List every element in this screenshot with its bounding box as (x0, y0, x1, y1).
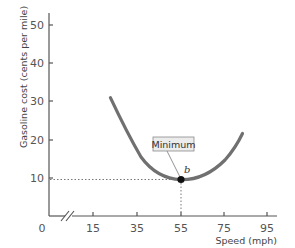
origin-label: 0 (39, 222, 46, 235)
y-tick-labels: 50 40 30 20 10 (30, 19, 44, 185)
callout-leader (167, 151, 180, 177)
y-tick-20: 20 (30, 134, 44, 147)
minimum-callout: Minimum (151, 137, 195, 151)
point-label-b: b (184, 164, 190, 175)
x-tick-labels: 0 15 35 55 75 95 (39, 222, 275, 235)
x-tick-15: 15 (86, 222, 100, 235)
y-tick-10: 10 (30, 172, 44, 185)
x-tick-75: 75 (217, 222, 231, 235)
x-tick-35: 35 (130, 222, 144, 235)
y-axis-title: Gasoline cost (cents per mile) (18, 6, 29, 148)
y-tick-40: 40 (30, 57, 44, 70)
x-axis-title: Speed (mph) (215, 235, 277, 246)
y-tick-50: 50 (30, 19, 44, 32)
reference-lines (50, 180, 181, 216)
callout-text: Minimum (151, 139, 195, 150)
x-tick-55: 55 (174, 222, 188, 235)
y-tick-30: 30 (30, 95, 44, 108)
minimum-point (177, 176, 184, 183)
x-tick-95: 95 (260, 222, 274, 235)
chart: Gasoline cost (cents per mile) 50 40 30 … (0, 0, 295, 248)
axes (49, 13, 277, 221)
